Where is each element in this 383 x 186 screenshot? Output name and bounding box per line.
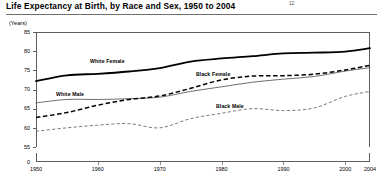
x-axis-tick-label: 1990 [268,166,298,172]
series-label-white-male: White Male [56,91,84,97]
series-line-black-male [36,91,370,131]
series-label-black-male: Black Male [216,103,244,109]
chart-plot-lines [36,32,370,147]
y-axis-tick-label: 70 [14,86,30,92]
y-axis-tick-label: 0 [14,159,30,165]
title-footnote-marker: 12 [289,1,294,6]
x-axis-tick-mark [222,162,223,165]
x-axis-tick-mark [345,162,346,165]
page-title: Life Expectancy at Birth, by Race and Se… [6,1,235,11]
y-axis-tick-label: 75 [14,67,30,73]
title-block: Life Expectancy at Birth, by Race and Se… [6,1,377,17]
x-axis-tick-label: 1970 [145,166,175,172]
y-axis-tick-label: 60 [14,125,30,131]
y-axis-tick-mark [33,147,36,148]
y-axis-tick-label: 65 [14,105,30,111]
series-label-black-female: Black Female [196,71,230,77]
x-axis-tick-label: 1960 [83,166,113,172]
y-axis-tick-label: 55 [14,144,30,150]
y-axis-units-label: (Years) [9,20,27,26]
title-divider [6,14,377,15]
x-axis-tick-mark [160,162,161,165]
x-axis-tick-mark [283,162,284,165]
y-axis-tick-label: 85 [14,29,30,35]
x-axis-tick-label: 1980 [207,166,237,172]
x-axis-tick-label: 2004 [355,166,383,172]
x-axis-tick-mark [98,162,99,165]
y-axis-tick-label: 80 [14,48,30,54]
series-label-white-female: White Female [90,58,125,64]
x-axis-baseline [36,161,370,162]
x-axis-tick-label: 1950 [21,166,51,172]
